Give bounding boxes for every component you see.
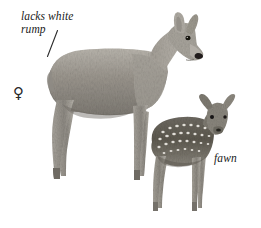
callout-line-2: rump [21, 23, 74, 36]
callout-fawn: fawn [214, 152, 237, 165]
callout-line-1: lacks white [21, 10, 74, 22]
callout-lacks-white-rump: lacks whiterump [21, 10, 74, 35]
female-sex-symbol: ♀ [13, 86, 24, 101]
illustration-plate: lacks whiterump fawn ♀ [0, 0, 261, 228]
